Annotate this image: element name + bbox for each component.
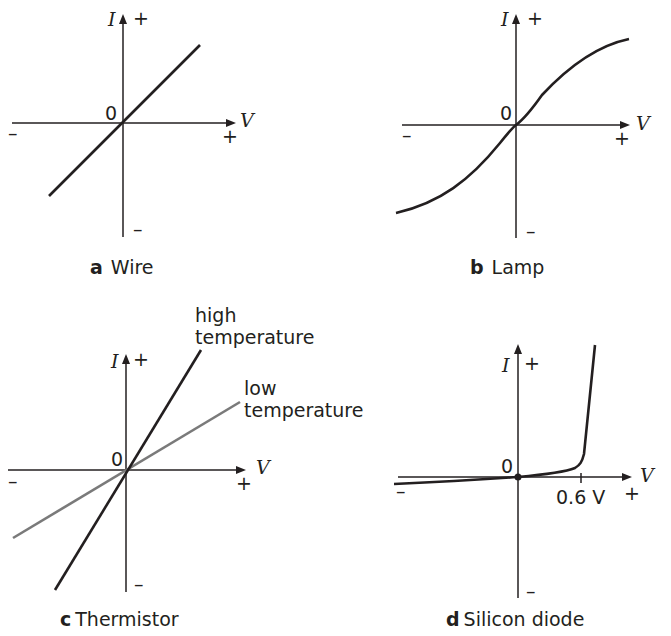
y-plus: + bbox=[133, 350, 149, 369]
y-axis-arrow-icon bbox=[514, 344, 522, 354]
origin-label: 0 bbox=[111, 450, 123, 469]
origin-label: 0 bbox=[105, 104, 117, 123]
panel-thermistor: high temperature low temperature I + – 0… bbox=[0, 290, 390, 636]
x-tick-label: 0.6 V bbox=[556, 488, 605, 507]
y-minus: – bbox=[134, 575, 144, 594]
y-axis-arrow-icon bbox=[119, 14, 127, 24]
origin-dot-icon bbox=[515, 474, 522, 481]
x-plus: + bbox=[614, 129, 630, 148]
origin-label: 0 bbox=[500, 104, 512, 123]
y-plus: + bbox=[133, 9, 149, 28]
lamp-curve bbox=[396, 39, 629, 213]
x-minus: – bbox=[8, 472, 18, 491]
panel-wire: I + – 0 V + – aWire bbox=[0, 0, 300, 290]
caption-wire: aWire bbox=[90, 256, 154, 278]
x-axis-label: V bbox=[240, 111, 254, 130]
x-axis-label: V bbox=[640, 466, 654, 485]
y-minus: – bbox=[526, 222, 536, 241]
y-minus: – bbox=[526, 582, 536, 601]
diode-curve bbox=[394, 345, 595, 484]
caption-lamp: bLamp bbox=[470, 256, 544, 278]
y-axis-label: I bbox=[502, 356, 510, 375]
x-plus: + bbox=[236, 474, 252, 493]
high-temperature-label: high temperature bbox=[195, 304, 314, 348]
x-axis-label: V bbox=[636, 114, 650, 133]
y-axis-label: I bbox=[501, 10, 509, 29]
low-temperature-label: low temperature bbox=[244, 377, 363, 421]
y-axis-label: I bbox=[111, 352, 119, 371]
panel-lamp: I + – 0 V + – bLamp bbox=[390, 0, 671, 290]
y-axis-arrow-icon bbox=[122, 354, 130, 364]
caption-thermistor: cThermistor bbox=[60, 608, 179, 630]
x-plus: + bbox=[624, 484, 640, 503]
panel-silicon-diode: I + – 0 V + – 0.6 V dSilicon diode bbox=[390, 330, 671, 636]
y-axis-label: I bbox=[108, 10, 116, 29]
x-minus: – bbox=[8, 124, 18, 143]
x-minus: – bbox=[396, 482, 406, 501]
caption-silicon-diode: dSilicon diode bbox=[446, 608, 584, 630]
y-axis-arrow-icon bbox=[512, 14, 520, 24]
y-minus: – bbox=[133, 220, 143, 239]
wire-graph bbox=[0, 0, 300, 290]
x-minus: – bbox=[402, 126, 412, 145]
y-plus: + bbox=[524, 354, 540, 373]
y-plus: + bbox=[527, 9, 543, 28]
x-axis-arrow-icon bbox=[622, 473, 632, 481]
x-plus: + bbox=[222, 127, 238, 146]
wire-line bbox=[49, 45, 200, 196]
origin-label: 0 bbox=[501, 457, 513, 476]
x-axis-label: V bbox=[256, 458, 270, 477]
